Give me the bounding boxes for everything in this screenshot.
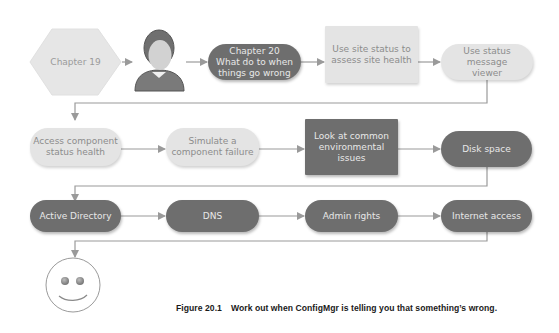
node-active-directory-label: Active Directory <box>39 211 111 222</box>
node-site-status: Use site status to assess site health <box>325 26 418 83</box>
node-chapter-20-label: Chapter 20 What do to when things go wro… <box>216 46 293 79</box>
connector-row2-row3 <box>75 166 487 201</box>
node-dns-label: DNS <box>203 211 222 222</box>
node-active-directory: Active Directory <box>30 200 121 232</box>
node-disk-space-label: Disk space <box>462 144 511 155</box>
node-chapter-19-label: Chapter 19 <box>50 57 100 68</box>
figure-caption-text: Work out when ConfigMgr is telling you t… <box>231 303 497 313</box>
node-internet-access: Internet access <box>441 200 532 232</box>
node-admin-rights: Admin rights <box>305 200 398 232</box>
node-status-message-viewer-label: Use status message viewer <box>444 46 530 79</box>
node-environmental-issues: Look at common environmental issues <box>305 119 398 175</box>
person-icon <box>135 30 184 91</box>
node-chapter-19: Chapter 19 <box>30 29 121 95</box>
node-internet-access-label: Internet access <box>452 211 521 222</box>
node-chapter-20: Chapter 20 What do to when things go wro… <box>208 44 301 80</box>
node-component-status: Access component status health <box>30 128 121 166</box>
node-dns: DNS <box>166 200 259 232</box>
figure-caption: Figure 20.1Work out when ConfigMgr is te… <box>176 303 497 313</box>
connector-row3-smiley <box>75 232 487 257</box>
node-simulate-failure: Simulate a component failure <box>166 128 259 166</box>
node-environmental-issues-label: Look at common environmental issues <box>314 131 389 164</box>
node-disk-space: Disk space <box>441 131 532 167</box>
node-status-message-viewer: Use status message viewer <box>441 44 533 80</box>
node-admin-rights-label: Admin rights <box>323 211 380 222</box>
smiley-face-icon <box>46 258 100 312</box>
node-component-status-label: Access component status health <box>33 136 118 158</box>
flowchart-canvas: Chapter 19 Chapter 20 What do to when th… <box>0 0 559 333</box>
node-simulate-failure-label: Simulate a component failure <box>171 136 253 158</box>
node-site-status-label: Use site status to assess site health <box>331 44 411 66</box>
figure-number: Figure 20.1 <box>176 303 222 313</box>
